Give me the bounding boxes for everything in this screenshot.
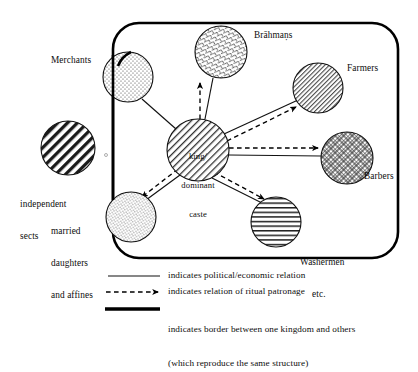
legend-text-kingdom-border-line1: indicates border between one kingdom and… (168, 324, 416, 335)
edge-king-merchants (142, 99, 176, 129)
edge-king-brahmans (205, 78, 213, 119)
scan-speck (105, 154, 108, 157)
label-washermen-line2: etc. (312, 289, 380, 300)
node-merchants (103, 52, 153, 102)
label-brahmans: Brāhmaṇs (254, 30, 293, 41)
legend-text-political-economic: indicates political/economic relation (168, 270, 305, 281)
label-married-daughters-line2: daughters (51, 258, 121, 269)
label-washermen-line1: Washermen (300, 257, 380, 268)
label-king-dominant-caste: king/ dominant caste (168, 133, 228, 239)
label-married-daughters: married daughters and affines (51, 205, 121, 322)
node-farmers (293, 63, 343, 113)
label-king-line2: dominant (168, 181, 228, 191)
legend-text-kingdom-border: indicates border between one kingdom and… (168, 302, 416, 372)
arrow-king-farmers (227, 107, 296, 141)
edge-king-farmers (224, 100, 298, 134)
label-barbers: Barbers (364, 171, 394, 182)
node-washermen (251, 197, 301, 247)
label-merchants: Merchants (51, 55, 91, 66)
node-independent-sects (41, 121, 95, 175)
legend-text-ritual-patronage: indicates relation of ritual patronage (168, 286, 305, 297)
label-king-line3: caste (168, 210, 228, 220)
edge-king-barbers (229, 155, 321, 156)
legend-text-kingdom-border-line2: (which reproduce the same structure) (168, 358, 416, 369)
node-brahmans (195, 26, 247, 78)
label-king-line1: king/ (168, 152, 228, 162)
label-married-daughters-line3: and affines (51, 290, 121, 301)
label-married-daughters-line1: married (51, 226, 121, 237)
label-farmers: Farmers (347, 63, 378, 74)
